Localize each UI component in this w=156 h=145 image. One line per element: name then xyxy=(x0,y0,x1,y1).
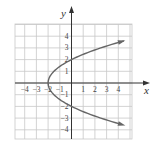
y-axis-label: y xyxy=(60,7,66,19)
x-tick-label: 4 xyxy=(116,85,120,94)
x-tick-label: 3 xyxy=(105,85,109,94)
y-tick-label: 3 xyxy=(65,43,69,52)
parabola-chart: −4−3−2−112344321−1−2−3−4 y x xyxy=(0,0,156,145)
x-tick-label: −3 xyxy=(32,85,40,94)
y-tick-label: 4 xyxy=(65,32,69,41)
y-tick-label: −3 xyxy=(61,114,69,123)
x-tick-label: −4 xyxy=(21,85,29,94)
x-tick-label: 2 xyxy=(93,85,97,94)
y-tick-label: −4 xyxy=(61,125,69,134)
x-tick-label: 1 xyxy=(81,85,85,94)
x-axis-label: x xyxy=(143,84,149,96)
y-tick-label: 1 xyxy=(65,67,69,76)
y-tick-label: −1 xyxy=(61,90,69,99)
